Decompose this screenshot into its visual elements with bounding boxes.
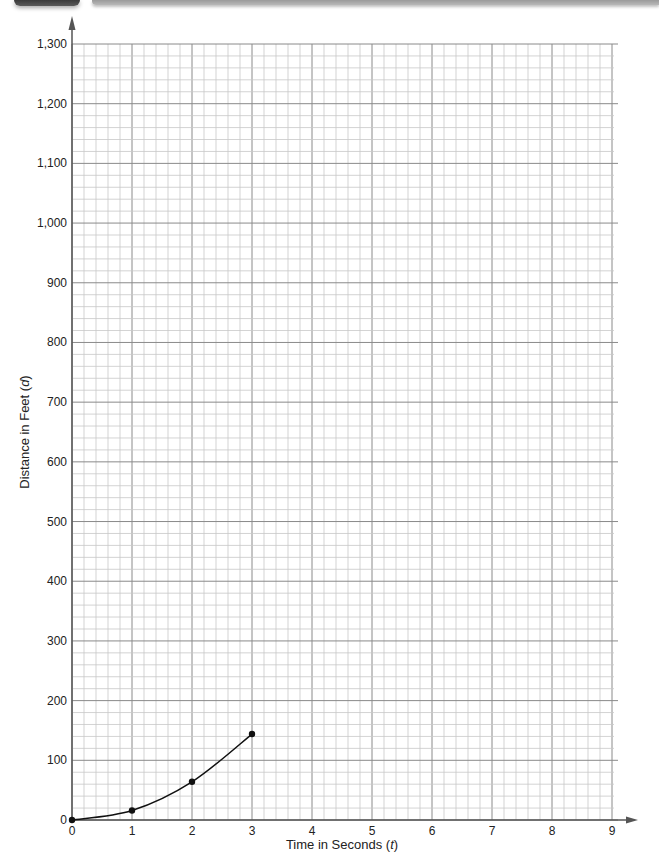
y-tick-label: 1,100	[37, 156, 67, 170]
x-tick-label: 7	[489, 824, 496, 838]
x-tick-label: 0	[69, 824, 76, 838]
y-axis-arrow-icon	[69, 16, 76, 30]
data-point	[189, 779, 195, 785]
y-tick-label: 100	[47, 753, 67, 767]
y-axis-label: Distance in Feet (d)	[17, 375, 32, 488]
x-tick-label: 8	[549, 824, 556, 838]
data-series	[69, 731, 255, 823]
x-tick-label: 1	[129, 824, 136, 838]
y-tick-label: 700	[47, 395, 67, 409]
x-tick-label: 3	[249, 824, 256, 838]
y-tick-label: 500	[47, 515, 67, 529]
y-tick-label: 300	[47, 634, 67, 648]
grid	[72, 44, 618, 820]
data-point	[249, 731, 255, 737]
x-tick-label: 5	[369, 824, 376, 838]
distance-time-chart: 01002003004005006007008009001,0001,1001,…	[0, 0, 659, 854]
y-tick-label: 200	[47, 694, 67, 708]
x-axis-label: Time in Seconds (t)	[286, 837, 398, 852]
y-tick-label: 1,200	[37, 97, 67, 111]
axes	[69, 16, 639, 824]
x-tick-label: 4	[309, 824, 316, 838]
y-axis-ticks: 01002003004005006007008009001,0001,1001,…	[37, 37, 67, 827]
x-axis-ticks: 0123456789	[69, 824, 616, 838]
data-point	[69, 817, 75, 823]
y-tick-label: 800	[47, 335, 67, 349]
y-tick-label: 0	[60, 813, 67, 827]
x-tick-label: 6	[429, 824, 436, 838]
x-axis-arrow-icon	[626, 817, 638, 824]
y-tick-label: 1,300	[37, 37, 67, 51]
y-tick-label: 900	[47, 276, 67, 290]
y-tick-label: 1,000	[37, 216, 67, 230]
x-tick-label: 9	[609, 824, 616, 838]
y-tick-label: 400	[47, 574, 67, 588]
x-tick-label: 2	[189, 824, 196, 838]
data-point	[129, 807, 135, 813]
series-line	[72, 734, 252, 820]
y-tick-label: 600	[47, 455, 67, 469]
